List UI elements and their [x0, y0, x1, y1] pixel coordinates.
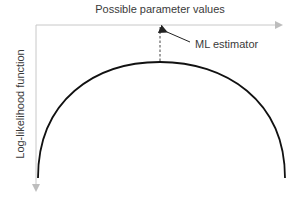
likelihood-diagram: Possible parameter values ML estimator L…: [0, 0, 296, 199]
ml-estimator-pointer-arrow: [167, 32, 190, 42]
log-likelihood-curve: [38, 62, 285, 178]
ml-estimator-label: ML estimator: [195, 38, 259, 50]
x-axis-label: Possible parameter values: [95, 3, 225, 15]
y-axis-label: Log-likelihood function: [14, 49, 26, 158]
